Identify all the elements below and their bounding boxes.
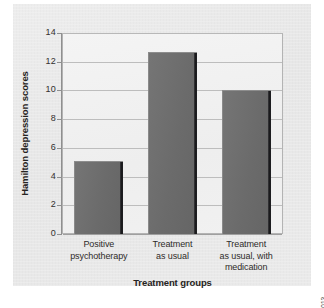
- bar-shadow-edge: [120, 162, 123, 234]
- copyright-credit: © Cengage Learning 2013: [320, 297, 324, 308]
- bar-series: [62, 33, 283, 234]
- y-tick-label: 8: [30, 114, 56, 123]
- x-category-label-line: medication: [201, 262, 291, 274]
- bar: [148, 52, 197, 234]
- x-category-label-line: as usual, with: [201, 251, 291, 263]
- y-tick-label: 14: [30, 28, 56, 37]
- x-axis-category-labels: PositivepsychotherapyTreatmentas usualTr…: [62, 239, 283, 281]
- bar: [222, 90, 271, 234]
- y-tick-label: 12: [30, 57, 56, 66]
- y-axis-ticks: 02468101214: [0, 0, 56, 308]
- bar: [74, 161, 123, 234]
- y-tick-label: 10: [30, 85, 56, 94]
- bar-shadow-edge: [194, 53, 197, 234]
- x-category-label-line: Treatment: [201, 239, 291, 251]
- figure-container: Hamilton depression scores 02468101214 P…: [0, 0, 324, 308]
- bar-shadow-edge: [268, 91, 271, 234]
- y-tick-label: 0: [30, 229, 56, 238]
- x-axis-title: Treatment groups: [62, 277, 283, 288]
- gridline: [63, 234, 282, 235]
- y-tick-label: 4: [30, 172, 56, 181]
- y-tick-label: 6: [30, 143, 56, 152]
- x-category-label: Treatmentas usual, withmedication: [201, 239, 291, 274]
- y-tick-label: 2: [30, 200, 56, 209]
